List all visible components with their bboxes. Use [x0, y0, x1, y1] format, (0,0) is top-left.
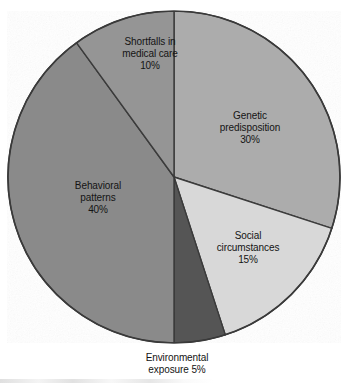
pie-chart-figure: Genetic predisposition 30% Behavioral pa…: [0, 0, 344, 386]
pie-chart-graphic: [0, 0, 344, 386]
